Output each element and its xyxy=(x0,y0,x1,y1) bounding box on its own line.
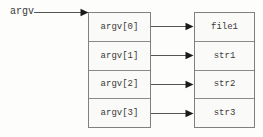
argv-cell-0: argv[0] xyxy=(89,13,150,42)
argv-pointer-array-box: argv[0] argv[1] argv[2] argv[3] xyxy=(88,12,151,128)
pointer-arrow-3 xyxy=(151,110,194,117)
pointer-arrow-0 xyxy=(151,23,194,30)
string-values-box: file1 str1 str2 str3 xyxy=(194,12,255,128)
argv-cell-3: argv[3] xyxy=(89,99,150,127)
string-cell-1: str1 xyxy=(195,42,254,71)
pointer-arrow-2 xyxy=(151,81,194,88)
argv-label: argv xyxy=(10,6,34,18)
argv-pointer-diagram: argv argv[0] argv[1] argv[2] argv[3] fil… xyxy=(0,0,263,137)
argv-cell-2: argv[2] xyxy=(89,71,150,100)
string-cell-2: str2 xyxy=(195,71,254,100)
pointer-arrow-1 xyxy=(151,52,194,59)
argv-cell-1: argv[1] xyxy=(89,42,150,71)
string-cell-0: file1 xyxy=(195,13,254,42)
argv-pointer-arrow xyxy=(34,9,89,16)
string-cell-3: str3 xyxy=(195,99,254,127)
